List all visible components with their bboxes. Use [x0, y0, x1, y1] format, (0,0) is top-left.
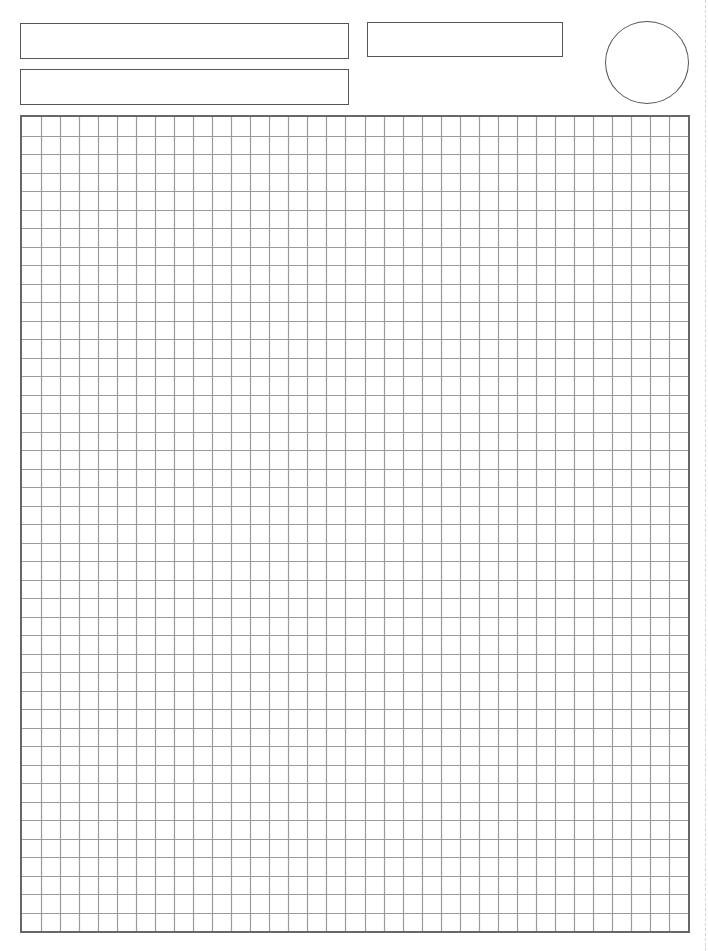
date-field[interactable] — [367, 22, 563, 57]
class-field[interactable] — [20, 69, 349, 105]
score-circle[interactable] — [605, 21, 689, 104]
graph-paper-grid — [20, 115, 690, 933]
dashed-cut-line — [705, 0, 706, 951]
grid-lines — [22, 117, 688, 931]
name-field[interactable] — [20, 23, 349, 59]
